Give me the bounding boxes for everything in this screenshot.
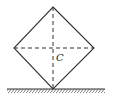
square-outline <box>14 7 94 89</box>
center-label: C <box>56 52 64 63</box>
diagram-canvas: C <box>0 0 115 103</box>
ground-hatching <box>7 89 105 93</box>
